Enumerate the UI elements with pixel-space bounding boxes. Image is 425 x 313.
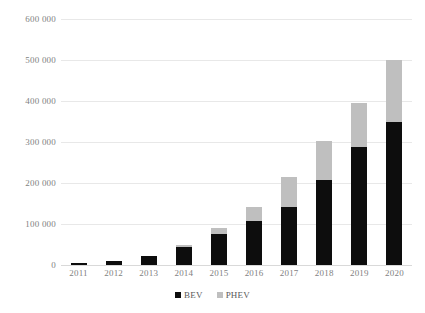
bar-segment-bev[interactable]	[106, 261, 122, 265]
bar-stack[interactable]	[106, 261, 122, 265]
y-tick-label: 500 000	[25, 55, 56, 65]
bar-group[interactable]	[176, 19, 192, 265]
bar-segment-bev[interactable]	[281, 207, 297, 265]
bar-segment-bev[interactable]	[141, 256, 157, 265]
bar-segment-bev[interactable]	[176, 247, 192, 265]
bar-stack[interactable]	[351, 103, 367, 265]
bar-group[interactable]	[386, 19, 402, 265]
bar-stack[interactable]	[211, 228, 227, 265]
bar-group[interactable]	[281, 19, 297, 265]
bar-segment-phev[interactable]	[386, 60, 402, 122]
bar-segment-bev[interactable]	[316, 180, 332, 265]
x-tick-label: 2016	[245, 267, 264, 279]
bar-group[interactable]	[351, 19, 367, 265]
legend-label: PHEV	[226, 290, 250, 300]
bar-group[interactable]	[246, 19, 262, 265]
bar-stack[interactable]	[386, 60, 402, 265]
bar-group[interactable]	[106, 19, 122, 265]
bar-stack[interactable]	[71, 263, 87, 265]
y-tick-label: 600 000	[25, 14, 56, 24]
legend-item-bev[interactable]: BEV	[175, 290, 203, 300]
x-tick-label: 2018	[315, 267, 334, 279]
gridline-0	[61, 265, 412, 266]
x-tick-label: 2012	[104, 267, 123, 279]
bar-segment-phev[interactable]	[316, 141, 332, 180]
y-tick-label: 0	[51, 260, 56, 270]
y-axis: 0100 000200 000300 000400 000500 000600 …	[0, 19, 56, 265]
bar-stack[interactable]	[141, 256, 157, 265]
legend-item-phev[interactable]: PHEV	[217, 290, 250, 300]
x-tick-label: 2020	[385, 267, 404, 279]
x-axis: 2011201220132014201520162017201820192020	[61, 267, 412, 283]
bar-segment-phev[interactable]	[246, 207, 262, 221]
y-tick-label: 400 000	[25, 96, 56, 106]
bar-group[interactable]	[316, 19, 332, 265]
bar-group[interactable]	[71, 19, 87, 265]
bar-segment-bev[interactable]	[246, 221, 262, 265]
x-tick-label: 2014	[174, 267, 193, 279]
bars-layer	[61, 19, 412, 265]
bar-group[interactable]	[211, 19, 227, 265]
bar-segment-bev[interactable]	[351, 147, 367, 265]
y-tick-label: 300 000	[25, 137, 56, 147]
chart-legend: BEVPHEV	[0, 290, 425, 300]
x-tick-label: 2019	[350, 267, 369, 279]
chart-container: 0100 000200 000300 000400 000500 000600 …	[0, 0, 425, 313]
bar-segment-bev[interactable]	[211, 234, 227, 265]
x-tick-label: 2013	[139, 267, 158, 279]
bar-stack[interactable]	[176, 245, 192, 265]
y-tick-label: 100 000	[25, 219, 56, 229]
bar-stack[interactable]	[246, 207, 262, 265]
x-tick-label: 2017	[280, 267, 299, 279]
bar-segment-phev[interactable]	[281, 177, 297, 207]
phev-swatch-icon	[217, 292, 223, 298]
y-tick-label: 200 000	[25, 178, 56, 188]
bar-segment-bev[interactable]	[71, 263, 87, 265]
bev-swatch-icon	[175, 292, 181, 298]
x-tick-label: 2015	[210, 267, 229, 279]
bar-stack[interactable]	[316, 141, 332, 265]
bar-group[interactable]	[141, 19, 157, 265]
bar-segment-phev[interactable]	[351, 103, 367, 147]
x-tick-label: 2011	[69, 267, 87, 279]
bar-segment-bev[interactable]	[386, 122, 402, 266]
bar-stack[interactable]	[281, 177, 297, 265]
legend-label: BEV	[184, 290, 203, 300]
